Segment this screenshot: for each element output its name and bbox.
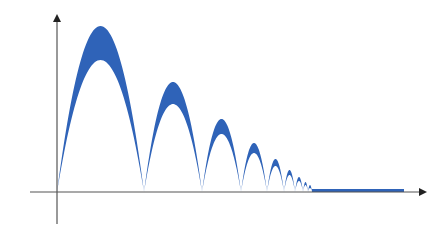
bounce-arch-2	[144, 82, 202, 192]
bounce-arch-3	[202, 119, 241, 192]
bounce-diagram	[0, 0, 445, 234]
bounce-bands	[57, 26, 404, 192]
bounce-arch-6	[284, 170, 295, 192]
bounce-arch-5	[267, 159, 284, 192]
diagram-canvas	[0, 0, 445, 234]
bounce-arch-7	[295, 177, 303, 192]
bounce-arch-4	[241, 143, 267, 192]
bounce-arch-9	[308, 185, 312, 192]
bounce-arch-1	[57, 26, 144, 192]
bounce-arch-8	[303, 182, 308, 192]
